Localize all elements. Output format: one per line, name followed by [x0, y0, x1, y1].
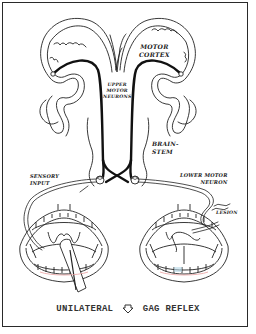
lesion-mark — [214, 204, 230, 206]
brainstem-label-line1: BRAIN- — [152, 140, 179, 148]
right-brainstem-nucleus — [131, 176, 139, 184]
sensory-input-label: SENSORY INPUT — [30, 173, 59, 187]
right-cortex-cell-body — [179, 72, 183, 76]
gag-reflex-diagram — [0, 0, 256, 334]
sensory-label-line2: INPUT — [30, 180, 59, 187]
sensory-label-line1: SENSORY — [30, 173, 59, 180]
left-brainstem-nucleus — [96, 176, 104, 184]
left-upper-motor-neuron — [54, 61, 128, 182]
caption-left: UNILATERAL — [56, 304, 113, 314]
brainstem-label-line2: STEM — [152, 148, 179, 156]
brainstem-label: BRAIN- STEM — [152, 140, 179, 156]
tongue-depressor — [60, 239, 86, 292]
right-mouth — [140, 204, 228, 282]
lesion-label: LESION — [216, 210, 238, 216]
lower-motor-neuron-label: LOWER MOTOR NEURON — [180, 172, 228, 186]
motor-cortex-label: MOTOR CORTEX — [139, 43, 170, 59]
down-arrow-outline-icon — [122, 304, 134, 314]
left-cortex-cell-body — [51, 72, 55, 76]
motor-cortex-label-line1: MOTOR — [139, 43, 170, 51]
longitudinal-fissure — [110, 34, 126, 72]
upper-motor-neurons-label: UPPER MOTOR NEURONS — [103, 82, 131, 100]
lesion-label-text: LESION — [216, 210, 238, 216]
lower-motor-label-line2: NEURON — [180, 179, 228, 186]
brainstem-left-outline — [87, 118, 94, 186]
caption-right: GAG REFLEX — [143, 304, 200, 314]
right-mouth-upper-lip — [140, 210, 228, 246]
upper-motor-label-line3: NEURONS — [103, 94, 131, 100]
brainstem-right-outline — [142, 118, 149, 186]
right-upper-motor-neuron — [106, 61, 180, 182]
motor-cortex-label-line2: CORTEX — [139, 51, 170, 59]
lower-motor-label-line1: LOWER MOTOR — [180, 172, 228, 179]
diagram-caption: UNILATERAL GAG REFLEX — [0, 304, 256, 314]
